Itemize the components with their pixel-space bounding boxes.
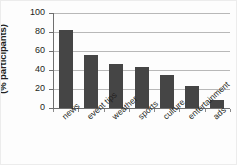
x-tick-mark [230,109,231,112]
bar [185,86,199,108]
x-tick-mark [53,109,54,112]
x-axis-line [53,108,230,109]
x-tick-mark [129,109,130,112]
bar [160,75,174,108]
x-tick-mark [154,109,155,112]
bar-chart-figure: Interest in content-types (% participant… [0,0,237,165]
y-tick-label: 80 [19,26,45,36]
y-tick-label: 0 [19,102,45,112]
y-axis-title-line-2: (% participants) [0,24,8,94]
y-tick-label: 60 [19,45,45,55]
bar [59,30,73,108]
x-tick-mark [78,109,79,112]
bar [84,55,98,108]
bar-series [53,13,230,108]
y-axis-title: Interest in content-types (% participant… [0,3,12,115]
x-tick-mark [104,109,105,112]
x-tick-mark [205,109,206,112]
bar [210,100,224,108]
y-tick-label: 20 [19,83,45,93]
y-tick-label: 100 [19,7,45,17]
bar [135,67,149,108]
x-tick-mark [179,109,180,112]
bar [109,64,123,108]
y-tick-label: 40 [19,64,45,74]
